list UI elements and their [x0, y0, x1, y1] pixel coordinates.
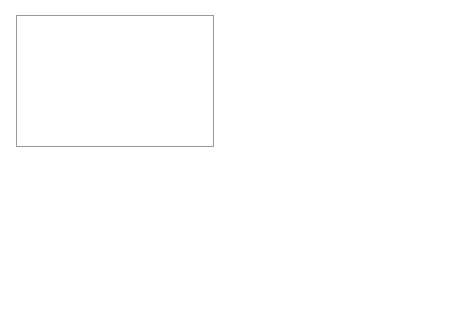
diagram-arrows — [0, 0, 460, 321]
frame-border — [17, 16, 214, 147]
